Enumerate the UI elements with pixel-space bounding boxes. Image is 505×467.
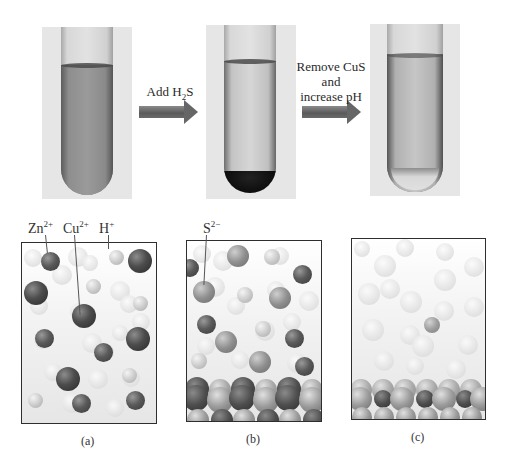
water-molecule [231,351,249,369]
water-molecule [358,283,380,305]
zn-ion [41,252,60,271]
arrow-remove-cus [302,106,348,118]
zn-ion [72,394,91,413]
arrow-add-h2s [139,106,185,118]
zn-ion [186,259,199,277]
water-molecule [24,249,42,267]
meniscus-a [61,63,113,68]
h-ion [191,353,207,369]
zn-ion [126,391,145,410]
h-ion [264,249,280,265]
s-ion [269,287,291,309]
liquid-a [61,65,113,195]
s-ion [249,351,271,373]
caption-a: (a) [81,434,94,449]
water-molecule [464,257,484,277]
zn-ion [293,265,312,284]
h-ion [109,250,124,265]
test-tube-b [224,25,276,193]
water-molecule [362,319,384,341]
ion-label-h: H+ [99,219,114,237]
water-molecule [354,241,370,257]
water-molecule [374,351,394,371]
water-molecule [458,335,478,355]
ion-label-cu: Cu2+ [63,219,89,237]
h-ion [122,368,137,383]
water-molecule [88,369,108,389]
zn-ion [197,315,216,334]
cu-ion [56,367,80,391]
water-molecule [446,359,466,379]
water-molecule [380,279,400,299]
water-molecule [106,399,124,417]
cus-lattice [187,377,321,421]
caption-b: (b) [246,432,260,447]
zn-ion [285,329,304,348]
step-label-add-h2s: Add H2S [134,84,206,105]
zn-ion [295,357,314,376]
h-ion [133,296,148,311]
ion-label-zn: Zn2+ [28,219,53,237]
h-ion [255,321,271,337]
water-molecule [464,297,484,317]
test-tube-a [61,27,113,195]
cu-ion [126,327,150,351]
zn-ion [35,329,54,348]
zn-ion [94,343,113,362]
cu-ion [72,304,96,328]
water-molecule [299,291,319,311]
water-molecule [434,269,456,291]
h-ion [28,393,43,408]
cu-ion [128,249,152,273]
zns-lattice [352,379,485,419]
panel-b [186,240,322,422]
s-ion [227,245,249,267]
leader-line-h [108,235,109,249]
meniscus-b [224,59,276,64]
water-molecule [412,335,434,357]
panel-a [21,242,157,424]
step-label-remove-cus: Remove CuS and increase pH [292,59,370,104]
meniscus-c [387,53,443,58]
water-molecule [400,291,422,313]
cu-ion [24,281,48,305]
water-molecule [396,239,414,257]
test-tube-c [387,24,443,192]
panel-c [351,238,486,420]
water-molecule [374,255,396,277]
s-ion [424,317,440,333]
h-ion [237,287,253,303]
water-molecule [82,255,98,271]
water-molecule [436,243,454,261]
s-ion [215,331,237,353]
water-molecule [406,357,424,375]
h-ion [86,279,101,294]
caption-c: (c) [411,430,424,445]
